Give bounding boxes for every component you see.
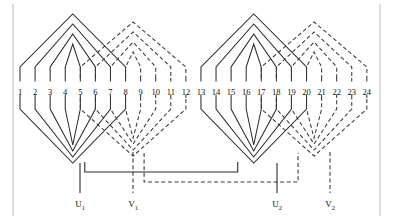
coil-bottom-u-g2-4 bbox=[246, 98, 261, 145]
coil-bottom-v-g1-2 bbox=[95, 98, 170, 150]
slot-number-14: 14 bbox=[208, 88, 224, 97]
slot-number-17: 17 bbox=[253, 88, 269, 97]
slot-number-15: 15 bbox=[223, 88, 239, 97]
coil-bottom-v-g2-4 bbox=[307, 98, 322, 138]
slot-number-6: 6 bbox=[87, 88, 103, 97]
coil-bottom-u-g2-1 bbox=[201, 98, 307, 163]
slot-number-19: 19 bbox=[283, 88, 299, 97]
slot-number-23: 23 bbox=[344, 88, 360, 97]
terminal-index-v1: 1 bbox=[135, 204, 138, 211]
slot-number-7: 7 bbox=[102, 88, 118, 97]
coil-top-u-g2-3 bbox=[231, 34, 276, 78]
terminal-index-u2: 2 bbox=[279, 204, 282, 211]
slot-number-11: 11 bbox=[163, 88, 179, 97]
winding-diagram-figure: 123456789101112131415161718192021222324 … bbox=[0, 0, 393, 220]
slot-number-5: 5 bbox=[72, 88, 88, 97]
coil-bottom-v-g1-4 bbox=[126, 98, 141, 138]
slot-number-1: 1 bbox=[12, 88, 28, 97]
coil-top-v-g2-4 bbox=[307, 52, 322, 78]
winding-lines-layer bbox=[13, 4, 380, 216]
bus-dashed-v bbox=[144, 153, 298, 182]
slot-number-16: 16 bbox=[238, 88, 254, 97]
slot-number-13: 13 bbox=[193, 88, 209, 97]
terminal-label-v1: V1 bbox=[119, 200, 147, 211]
bus-solid-u bbox=[85, 162, 238, 172]
coil-bottom-u-g1-2 bbox=[35, 98, 110, 157]
coil-top-v-g2-2 bbox=[276, 32, 351, 78]
coil-top-v-g1-4 bbox=[126, 52, 141, 78]
slot-number-24: 24 bbox=[359, 88, 375, 97]
terminal-index-v2: 2 bbox=[332, 204, 335, 211]
slot-number-22: 22 bbox=[329, 88, 345, 97]
terminal-label-v2: V2 bbox=[316, 200, 344, 211]
slot-number-2: 2 bbox=[27, 88, 43, 97]
slot-number-8: 8 bbox=[118, 88, 134, 97]
terminal-label-u2: U2 bbox=[263, 200, 291, 211]
winding-diagram-svg bbox=[0, 0, 393, 220]
coil-top-u-g1-4 bbox=[65, 44, 80, 78]
coil-top-v-g1-2 bbox=[95, 32, 170, 78]
slot-number-10: 10 bbox=[148, 88, 164, 97]
slot-number-12: 12 bbox=[178, 88, 194, 97]
terminal-label-u1: U1 bbox=[66, 200, 94, 211]
slot-number-9: 9 bbox=[133, 88, 149, 97]
coil-bottom-v-g2-2 bbox=[276, 98, 351, 150]
slot-number-4: 4 bbox=[57, 88, 73, 97]
slot-number-18: 18 bbox=[268, 88, 284, 97]
terminal-index-u1: 1 bbox=[82, 204, 85, 211]
coil-bottom-u-g2-2 bbox=[216, 98, 291, 157]
coil-bottom-u-g1-4 bbox=[65, 98, 80, 145]
coil-top-u-g2-4 bbox=[246, 44, 261, 78]
coil-bottom-u-g1-1 bbox=[20, 98, 126, 163]
slot-number-21: 21 bbox=[314, 88, 330, 97]
slot-number-3: 3 bbox=[42, 88, 58, 97]
coil-top-u-g1-3 bbox=[50, 34, 95, 78]
slot-number-20: 20 bbox=[299, 88, 315, 97]
